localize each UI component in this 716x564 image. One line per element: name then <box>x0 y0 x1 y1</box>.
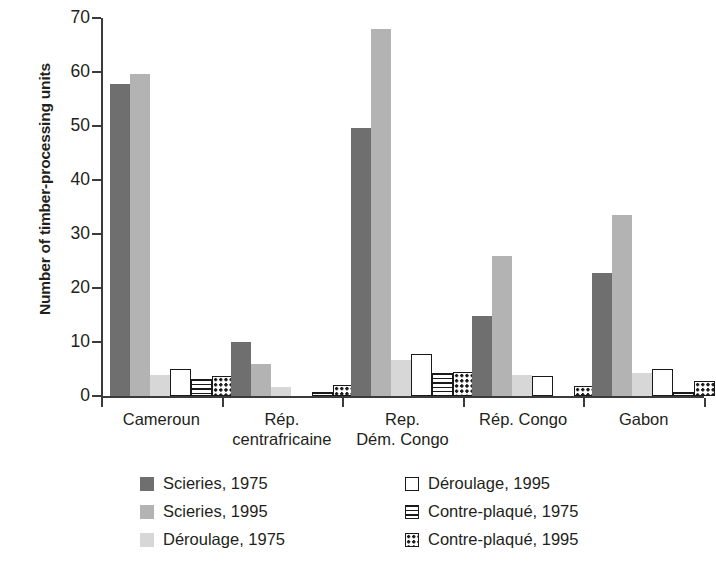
bar <box>351 128 371 396</box>
y-axis-tick-label: 70 <box>44 7 90 28</box>
x-axis-tick <box>463 398 465 407</box>
legend-label: Contre-plaqué, 1975 <box>428 502 578 521</box>
y-axis-tick-label: 60 <box>44 61 90 82</box>
legend-item[interactable]: Déroulage, 1995 <box>405 474 550 493</box>
legend-item[interactable]: Scieries, 1975 <box>140 474 268 493</box>
y-axis-tick <box>92 395 101 397</box>
category-label-line: Dém. Congo <box>320 429 485 449</box>
solid-dark-gray-swatch <box>140 477 154 491</box>
bar <box>411 354 432 396</box>
y-axis-tick-label: 30 <box>44 223 90 244</box>
bar <box>652 369 673 396</box>
x-axis-tick <box>583 398 585 407</box>
bar <box>512 375 532 396</box>
y-axis-tick-label: 40 <box>44 169 90 190</box>
y-axis-tick-label: 0 <box>44 385 90 406</box>
y-axis-tick-label: 50 <box>44 115 90 136</box>
legend-label: Déroulage, 1995 <box>428 474 550 493</box>
bar-group <box>583 18 704 396</box>
x-axis-tick <box>222 398 224 407</box>
bar <box>391 360 411 396</box>
bar <box>170 369 191 396</box>
legend-item[interactable]: Contre-plaqué, 1995 <box>405 530 578 549</box>
legend-label: Contre-plaqué, 1995 <box>428 530 578 549</box>
chart-figure: Number of timber-processing units 010203… <box>0 0 716 564</box>
legend-item[interactable]: Scieries, 1995 <box>140 502 268 521</box>
bar <box>371 29 391 396</box>
bar-group <box>342 18 463 396</box>
legend-item[interactable]: Déroulage, 1975 <box>140 530 285 549</box>
outline-white-swatch <box>405 477 419 491</box>
bar <box>532 376 553 396</box>
bar <box>251 364 271 396</box>
legend-label: Déroulage, 1975 <box>163 530 285 549</box>
y-axis-tick <box>92 233 101 235</box>
y-axis-tick <box>92 71 101 73</box>
horizontal-lines-swatch <box>405 505 419 519</box>
legend-label: Scieries, 1995 <box>163 502 268 521</box>
y-axis-tick <box>92 179 101 181</box>
legend-label: Scieries, 1975 <box>163 474 268 493</box>
x-axis-tick <box>704 398 706 407</box>
bar <box>492 256 512 396</box>
legend-item[interactable]: Contre-plaqué, 1975 <box>405 502 578 521</box>
x-axis-category-label: Gabon <box>561 409 716 429</box>
x-axis-tick <box>342 398 344 407</box>
bar-group <box>222 18 343 396</box>
x-axis-line <box>101 396 704 398</box>
bar <box>150 375 170 396</box>
bar-group <box>101 18 222 396</box>
y-axis-tick-label: 10 <box>44 331 90 352</box>
bar <box>110 84 130 396</box>
bar <box>130 74 150 396</box>
y-axis-tick <box>92 17 101 19</box>
y-axis-tick <box>92 287 101 289</box>
bar-group <box>463 18 584 396</box>
plot-area <box>101 18 704 398</box>
bar <box>632 373 652 396</box>
y-axis-tick-label: 20 <box>44 277 90 298</box>
bar <box>231 342 251 396</box>
bar <box>673 392 694 396</box>
bar <box>694 381 715 396</box>
bar <box>191 379 212 396</box>
y-axis-tick <box>92 125 101 127</box>
bar <box>432 373 453 396</box>
x-axis-tick <box>101 398 103 407</box>
bar <box>271 387 291 396</box>
solid-light-gray-swatch <box>140 533 154 547</box>
y-axis-tick <box>92 341 101 343</box>
bar <box>312 392 333 396</box>
dotted-swatch <box>405 533 419 547</box>
solid-mid-gray-swatch <box>140 505 154 519</box>
category-label-line: Gabon <box>561 409 716 429</box>
bar <box>592 273 612 396</box>
bar <box>612 215 632 396</box>
bar <box>472 316 492 396</box>
chart-legend: Scieries, 1975Scieries, 1995Déroulage, 1… <box>140 474 685 558</box>
